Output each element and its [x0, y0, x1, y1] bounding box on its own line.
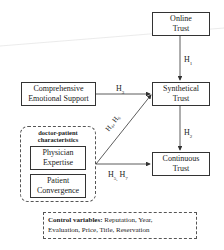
edge-label-h2: H2 — [184, 128, 192, 141]
node-label: Patient — [47, 176, 69, 186]
node-label: Trust — [173, 164, 190, 174]
control-line: Reputation, Year, — [103, 216, 153, 224]
edge-label-h3: H3 — [116, 84, 124, 97]
node-label: Expertise — [43, 158, 73, 168]
node-label: Comprehensive — [33, 84, 83, 94]
control-label: Control variables: — [48, 216, 103, 224]
node-continuous-trust: Continuous Trust — [152, 152, 210, 176]
node-label: Physician — [42, 148, 73, 158]
node-label: Trust — [173, 24, 190, 34]
control-line: Evaluation, Price, Title, Reservation — [48, 225, 192, 235]
node-physician-expertise: Physician Expertise — [30, 146, 86, 170]
node-comprehensive-emotional-support: Comprehensive Emotional Support — [21, 82, 96, 106]
edge-label-h5-h7: H5, H7 — [108, 170, 128, 183]
node-label: Continuous — [163, 154, 200, 164]
node-label: Trust — [173, 94, 190, 104]
edge-label-h1: H1 — [184, 55, 192, 68]
node-patient-convergence: Patient Convergence — [30, 174, 86, 198]
node-online-trust: Online Trust — [152, 12, 210, 36]
node-label: Convergence — [37, 186, 79, 196]
node-label: Online — [170, 14, 192, 24]
node-label: Emotional Support — [28, 94, 89, 104]
node-synthetical-trust: Synthetical Trust — [152, 82, 210, 106]
group-title: doctor-patientcharacteristics — [20, 129, 96, 143]
control-variables-box: Control variables: Reputation, Year, Eva… — [43, 212, 197, 239]
node-label: Synthetical — [163, 84, 199, 94]
